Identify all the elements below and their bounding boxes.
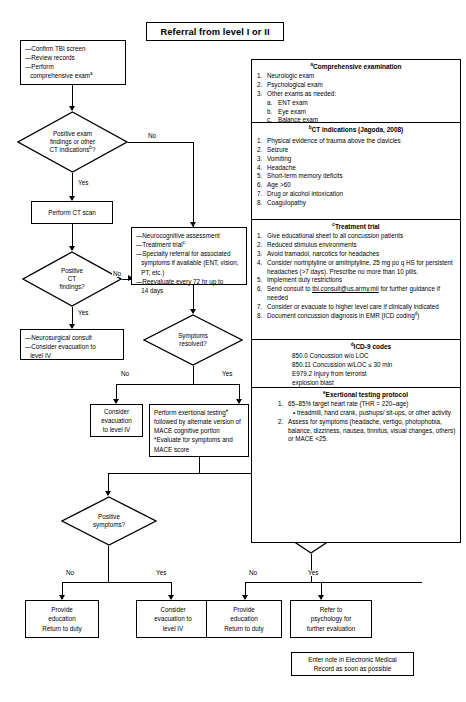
icd9-line-1: 850.0 Concussion w/o LOC: [292, 352, 456, 361]
decision-positive-symptoms-label: Positive symptoms?: [61, 496, 157, 546]
list-item: 7.Consider or evacuate to higher level c…: [256, 303, 456, 312]
edge-label-exam-no: No: [147, 133, 157, 139]
ce-line-1: Consider: [95, 407, 138, 416]
icd9-heading: dICD-9 codes: [286, 343, 456, 351]
list-item: 7.Drug or alcohol intoxication: [256, 190, 456, 199]
et-line-1: Perform exertional testinge: [154, 409, 228, 416]
list-item: 5.Implement duty restrictions: [256, 276, 456, 285]
mgmt-line-3: —Specialty referral for associated: [136, 249, 242, 258]
list-item: c.Balance exam: [267, 116, 456, 125]
node-consider-evacuation-level-iv: Consider evacuation to level IV: [90, 404, 143, 437]
node-consider-evacuation-right: Consider evacuation to level IV: [136, 600, 210, 638]
list-item: 1.65–85% target heart rate (THR = 220–ag…: [277, 400, 456, 409]
et-line-5: *Evaluate for symptoms: [154, 436, 221, 443]
cer-line-1: Consider: [141, 605, 205, 614]
edge-label-mace-no: No: [248, 570, 258, 576]
treatment-trial-heading: cTreatment trial: [256, 223, 456, 231]
initial-line-4: comprehensive exama: [25, 71, 121, 80]
exertional-protocol-list-2: 2.Assess for symptoms (headache, vertigo…: [277, 418, 456, 444]
initial-line-2: —Review records: [25, 53, 121, 62]
decision-symptoms-resolved: Symptoms resolved?: [143, 314, 243, 366]
list-item: 1.Physical evidence of trauma above the …: [256, 137, 456, 146]
edge-et-stem: [199, 457, 200, 474]
per-line-1: Provide: [211, 605, 277, 614]
mgmt-line-4: symptoms if available (ENT, vision,: [136, 258, 242, 267]
et-line-4: portion: [201, 427, 220, 434]
ctf-line-3: findings?: [59, 283, 84, 291]
treatment-trial-list: 1.Give educational sheet to all concussi…: [256, 232, 456, 320]
decision-symptoms-resolved-label: Symptoms resolved?: [143, 314, 243, 366]
sr-line-1: Symptoms: [178, 332, 208, 340]
node-refer-psychology: Refer to psychology for further evaluati…: [290, 600, 372, 638]
treatment-trial-item-6-text: Send consult to tbi.consult@us.army.mil …: [267, 285, 440, 301]
title-label: Referral from level I or II: [160, 27, 269, 37]
cer-line-2: evacuation to: [141, 614, 205, 623]
ct-indications-heading: bCT indications (Jagoda, 2008): [256, 126, 456, 134]
neuro-line-3: level IV: [25, 351, 119, 360]
edge-exam-no-h: [128, 142, 194, 143]
panel-section-treatment-trial: cTreatment trial 1.Give educational shee…: [252, 220, 460, 340]
decision-ct-findings: Positive CT findings?: [22, 251, 122, 307]
icd9-line-2: 850.11 Concussion w/LOC ≤ 30 min: [292, 361, 456, 370]
node-provide-education-left: Provide education Return to duty: [25, 600, 99, 638]
exertional-protocol-list: 1.65–85% target heart rate (THR = 220–ag…: [277, 400, 456, 409]
list-item: 2.Seizure: [256, 146, 456, 155]
pel-line-2: education: [30, 614, 94, 623]
decision-positive-symptoms: Positive symptoms?: [61, 496, 157, 546]
mgmt-line-5: PT, etc.): [136, 268, 242, 277]
edge-label-sr-yes: Yes: [221, 371, 233, 377]
icd9-lines: 850.0 Concussion w/o LOC 850.11 Concussi…: [292, 352, 456, 387]
icd9-line-3: E979.2 Injury from terrorist: [292, 370, 456, 379]
edge-label-ps-yes: Yes: [155, 570, 167, 576]
mgmt-line-1: —Neurocognitive assessment: [136, 231, 242, 240]
node-management-plan: —Neurocognitive assessment —Treatment tr…: [131, 227, 247, 285]
neuro-line-2: —Consider evacuation to: [25, 342, 119, 351]
per-line-3: Return to duty: [211, 624, 277, 633]
ps-line-2: symptoms?: [93, 521, 125, 529]
decision-ct-findings-label: Positive CT findings?: [22, 251, 122, 307]
node-perform-ct-scan: Perform CT scan: [31, 201, 113, 224]
sr-line-2: resolved?: [179, 340, 206, 348]
exam-line-3: CT indicationsb?: [50, 146, 96, 154]
edge-ps-stem: [108, 546, 109, 563]
exertional-protocol-heading: eExertional testing protocol: [275, 391, 456, 399]
ps-line-1: Positive: [98, 513, 120, 521]
emr-line-2: Record as soon as possible: [296, 664, 409, 673]
panel-section-comprehensive-exam: aComprehensive examination 1.Neurologic …: [252, 60, 460, 123]
node-exertional-testing: Perform exertional testinge followed by …: [149, 404, 249, 457]
tbi-consult-link[interactable]: tbi.consult@us.army.mil: [312, 285, 378, 292]
edge-exam-no-v: [193, 142, 194, 227]
list-item: 3.Other exams as needed:: [256, 90, 456, 99]
node-initial-actions: —Confirm TBI screen —Review records —Per…: [20, 40, 126, 85]
treatment-trial-item-8-text: Document concussion diagnosis in EMR (IC…: [267, 312, 419, 319]
panel-section-exertional-protocol: eExertional testing protocol 1.65–85% ta…: [252, 388, 460, 493]
node-neurosurgical-consult: —Neurosurgical consult —Consider evacuat…: [20, 329, 124, 360]
neuro-line-1: —Neurosurgical consult: [25, 333, 119, 342]
list-item: 6.Send consult to tbi.consult@us.army.mi…: [256, 285, 456, 302]
edge-label-mace-yes: Yes: [307, 570, 319, 576]
edge-label-ps-no: No: [65, 570, 75, 576]
ctf-line-2: CT: [68, 275, 76, 283]
et-line-2: followed by alternate: [154, 418, 212, 425]
edge-label-exam-yes: Yes: [77, 180, 89, 186]
mgmt-line-6: —Reevaluate every 72 hr up to: [136, 277, 242, 286]
mgmt-line-7: 14 days: [136, 286, 242, 295]
flowchart-canvas: Referral from level I or II —Confirm TBI…: [0, 0, 466, 702]
mgmt-line-2: —Treatment trialc: [136, 240, 242, 249]
list-item: a.ENT exam: [267, 99, 456, 108]
list-item: 4.Headache: [256, 164, 456, 173]
exam-line-1: Positive exam: [53, 130, 92, 138]
list-item: 3.Avoid tramadol, narcotics for headache…: [256, 250, 456, 259]
list-item: 1.Give educational sheet to all concussi…: [256, 232, 456, 241]
edge-sr-stem: [193, 366, 194, 385]
rp-line-3: further evaluation: [295, 624, 367, 633]
reference-panel: aComprehensive examination 1.Neurologic …: [251, 59, 461, 543]
list-item: 2.Psychological exam: [256, 81, 456, 90]
edge-sr-split: [116, 384, 240, 385]
edge-mace-split: [245, 582, 422, 583]
per-line-2: education: [211, 614, 277, 623]
ce-line-3: to level IV: [95, 425, 138, 434]
edge-ps-split: [62, 582, 172, 583]
list-item: 4.Consider nortriptyline or amitriptylin…: [256, 259, 456, 276]
rp-line-2: psychology for: [295, 614, 367, 623]
